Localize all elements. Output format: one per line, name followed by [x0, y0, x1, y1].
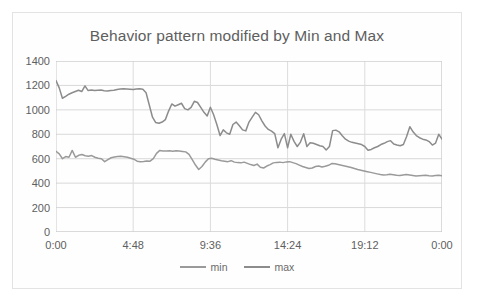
- y-axis-tick-label: 200: [32, 202, 50, 214]
- chart-title: Behavior pattern modified by Min and Max: [13, 27, 461, 45]
- chart-container: Behavior pattern modified by Min and Max…: [12, 12, 462, 289]
- x-axis-tick-label: 0:00: [431, 239, 452, 251]
- legend-line-swatch-max: [244, 266, 270, 268]
- chart-legend: minmax: [13, 261, 461, 273]
- plot-border: [56, 61, 442, 232]
- y-axis-tick-label: 1000: [26, 104, 50, 116]
- y-axis-tick-label: 1400: [26, 55, 50, 67]
- plot-area: [56, 61, 442, 232]
- series-lines: [56, 81, 442, 177]
- y-axis-tick-label: 0: [44, 226, 50, 238]
- legend-entry-min[interactable]: min: [180, 261, 228, 273]
- x-axis-tick-label: 19:12: [351, 239, 379, 251]
- series-line-min: [56, 150, 442, 176]
- y-axis-tick-label: 600: [32, 153, 50, 165]
- legend-line-swatch-min: [180, 266, 206, 268]
- x-axis-tick-label: 0:00: [45, 239, 66, 251]
- x-axis-tick-label: 9:36: [200, 239, 221, 251]
- x-axis-tick-label: 4:48: [122, 239, 143, 251]
- series-line-max: [56, 81, 442, 151]
- grid-lines: [56, 61, 442, 232]
- plot-wrapper: 0200400600800100012001400 0:004:489:3614…: [56, 61, 442, 232]
- legend-entry-max[interactable]: max: [244, 261, 295, 273]
- y-axis-tick-label: 1200: [26, 79, 50, 91]
- legend-label-min: min: [211, 261, 228, 273]
- y-axis-tick-label: 400: [32, 177, 50, 189]
- x-axis-tick-label: 14:24: [274, 239, 302, 251]
- legend-label-max: max: [275, 261, 295, 273]
- y-axis-tick-label: 800: [32, 128, 50, 140]
